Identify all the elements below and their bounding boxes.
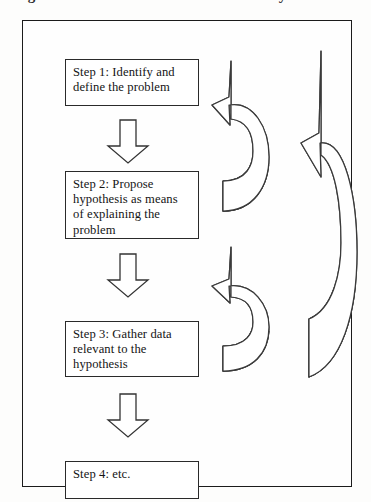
step-box-2-line-3: of explaining the — [73, 207, 198, 222]
step-box-1-line-2: define the problem — [73, 80, 198, 95]
curved-feedback-arrow-icon-step3-step2 — [209, 243, 287, 395]
step-box-3[interactable]: Step 3: Gather data relevant to the hypo… — [65, 321, 199, 377]
down-arrow-icon-step2-step3 — [106, 253, 150, 299]
step-box-2[interactable]: Step 2: Propose hypothesis as means of e… — [65, 171, 199, 239]
step-box-2-line-4: problem — [73, 223, 198, 238]
scanned-page: Figure: The scientific method research c… — [0, 0, 371, 502]
step-box-1[interactable]: Step 1: Identify and define the problem — [65, 59, 199, 106]
step-box-3-line-3: hypothesis — [73, 357, 198, 372]
curved-feedback-arrow-icon-step2-step1 — [209, 53, 287, 243]
step-box-4-line-1: Step 4: etc. — [73, 467, 198, 482]
curved-feedback-arrow-icon-step3-step1 — [289, 47, 369, 392]
step-box-4[interactable]: Step 4: etc. — [65, 461, 199, 499]
down-arrow-icon-step3-step4 — [106, 393, 150, 439]
step-box-2-line-2: hypothesis as means — [73, 192, 198, 207]
step-box-1-line-1: Step 1: Identify and — [73, 65, 198, 80]
diagram-frame: Step 1: Identify and define the problem … — [22, 20, 352, 487]
down-arrow-icon-step1-step2 — [106, 119, 150, 165]
page-title-sliver: Figure: The scientific method research c… — [14, 0, 314, 9]
step-box-3-line-2: relevant to the — [73, 342, 198, 357]
step-box-3-line-1: Step 3: Gather data — [73, 327, 198, 342]
step-box-2-line-1: Step 2: Propose — [73, 177, 198, 192]
